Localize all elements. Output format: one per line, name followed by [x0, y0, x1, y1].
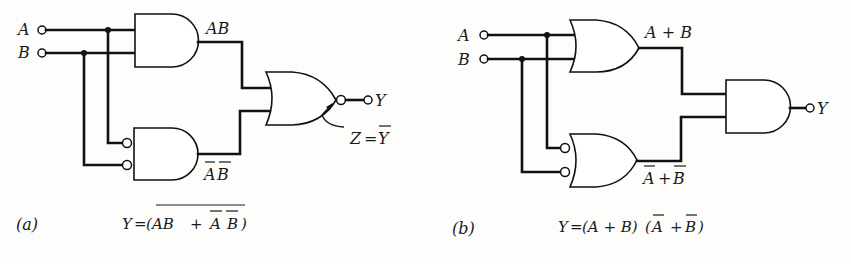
wire-or2-to-and [637, 117, 726, 161]
and-gate-1 [135, 14, 199, 67]
output-y-terminal [364, 96, 372, 104]
output-y-terminal-b [806, 104, 814, 112]
wire-or1-to-and [639, 48, 726, 94]
and-gate-2 [134, 128, 198, 180]
inverter-bubble-a-b [561, 144, 570, 153]
svg-text:): ) [240, 215, 247, 233]
svg-text:=: = [134, 215, 147, 233]
input-a-label-b: A [456, 26, 470, 45]
svg-text:AB: AB [150, 215, 174, 233]
label-a-plus-b: A + B [643, 23, 692, 42]
svg-text:(: ( [645, 218, 652, 236]
svg-text:A: A [208, 215, 221, 233]
wire-a-branch-b [547, 35, 561, 148]
svg-text:Y: Y [558, 218, 570, 236]
inverter-bubble-b [123, 161, 132, 170]
or-gate-2 [570, 134, 637, 187]
equation-b: Y = (A + B) ( A + B ) [558, 215, 704, 236]
svg-text:=: = [570, 218, 583, 236]
wire-abbar-to-nor [198, 111, 270, 154]
and-gate-b [726, 80, 791, 133]
figure-a: A B AB A B Y Z = [16, 14, 391, 234]
svg-text:+: + [190, 215, 203, 233]
svg-text:): ) [697, 218, 704, 236]
output-y-label: Y [375, 91, 387, 110]
svg-text:B: B [226, 215, 238, 233]
label-abar: A [202, 165, 216, 184]
input-b-label: B [17, 43, 30, 62]
svg-text:Y: Y [122, 215, 134, 233]
svg-text:A: A [650, 218, 663, 236]
nor-output-bubble [337, 96, 346, 105]
svg-text:(A + B): (A + B) [582, 218, 638, 236]
inverter-bubble-a [123, 139, 132, 148]
label-notb: B [672, 169, 685, 188]
label-nota: A [641, 169, 655, 188]
svg-text:+: + [670, 218, 683, 236]
wire-b-branch-b [522, 59, 561, 172]
output-y-label-b: Y [817, 99, 829, 118]
figure-b: A B A + B A + B Y (b) Y = [452, 20, 829, 238]
annotation-ybar: Y [378, 129, 390, 148]
annotation-eq: = [364, 129, 377, 148]
wire-ab-to-nor [198, 42, 270, 88]
label-plus: + [658, 169, 671, 188]
label-bbar: B [216, 165, 229, 184]
wire-b-branch [84, 53, 122, 165]
caption-b: (b) [452, 219, 475, 238]
wire-a-branch [108, 30, 122, 143]
svg-text:B: B [684, 218, 696, 236]
input-a-label: A [16, 20, 30, 39]
caption-a: (a) [16, 215, 38, 234]
or-gate-1 [570, 20, 639, 72]
nor-gate [266, 72, 336, 125]
label-ab: AB [204, 19, 230, 38]
equation-a: Y = ( AB + A B ) [122, 205, 247, 233]
inverter-bubble-b-b [561, 168, 570, 177]
logic-diagrams: A B AB A B Y Z = [0, 0, 851, 264]
input-b-label-b: B [457, 50, 470, 69]
annotation-z: Z [349, 129, 362, 148]
